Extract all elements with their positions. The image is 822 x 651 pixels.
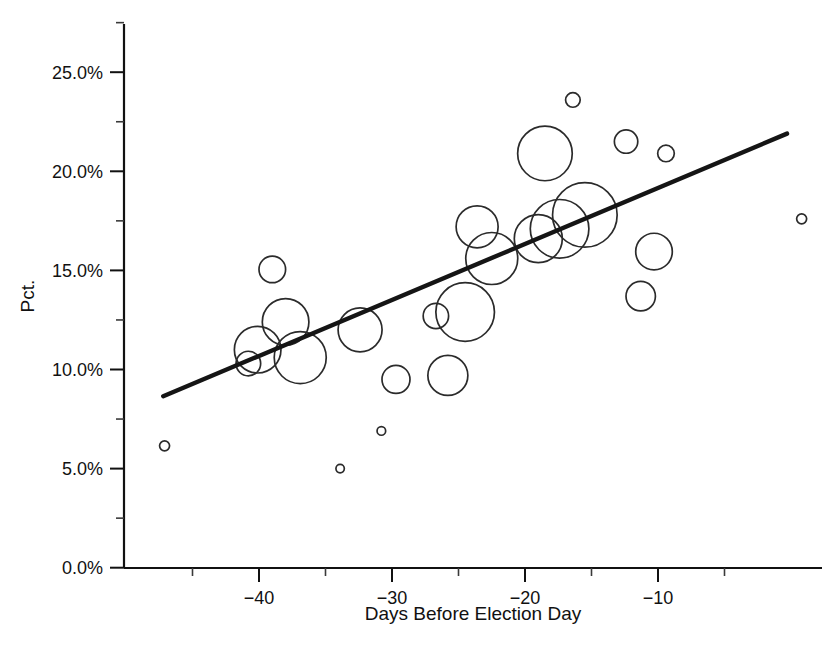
- data-bubble: [614, 130, 637, 153]
- x-axis-ticks: [193, 568, 725, 582]
- y-tick-label: 5.0%: [62, 459, 103, 479]
- regression-trend-line: [163, 134, 787, 397]
- y-axis-tick-labels: 0.0%5.0%10.0%15.0%20.0%25.0%: [52, 63, 103, 579]
- data-bubble: [160, 441, 170, 451]
- plot-axes: [124, 24, 822, 568]
- data-bubble: [456, 206, 498, 248]
- y-axis-title: Pct.: [17, 280, 38, 313]
- data-bubble: [518, 126, 573, 181]
- bubble-chart: 0.0%5.0%10.0%15.0%20.0%25.0% −40−30−20−1…: [0, 0, 822, 651]
- x-axis-title: Days Before Election Day: [365, 603, 582, 624]
- y-tick-label: 20.0%: [52, 162, 103, 182]
- data-bubble: [336, 464, 344, 472]
- x-tick-label: −40: [244, 588, 275, 608]
- chart-canvas: 0.0%5.0%10.0%15.0%20.0%25.0% −40−30−20−1…: [0, 0, 822, 651]
- data-bubble: [382, 365, 410, 393]
- data-bubble: [436, 283, 495, 342]
- data-bubbles: [160, 93, 807, 473]
- data-bubble: [566, 93, 581, 108]
- y-tick-label: 0.0%: [62, 558, 103, 578]
- y-tick-label: 10.0%: [52, 360, 103, 380]
- data-bubble: [626, 281, 655, 310]
- data-bubble: [428, 355, 468, 395]
- data-bubble: [797, 214, 807, 224]
- y-tick-label: 15.0%: [52, 261, 103, 281]
- x-tick-label: −10: [643, 588, 674, 608]
- y-axis-ticks: [110, 23, 124, 568]
- data-bubble: [636, 233, 673, 270]
- data-bubble: [658, 145, 675, 162]
- data-bubble: [259, 256, 286, 283]
- data-bubble: [377, 427, 386, 436]
- y-tick-label: 25.0%: [52, 63, 103, 83]
